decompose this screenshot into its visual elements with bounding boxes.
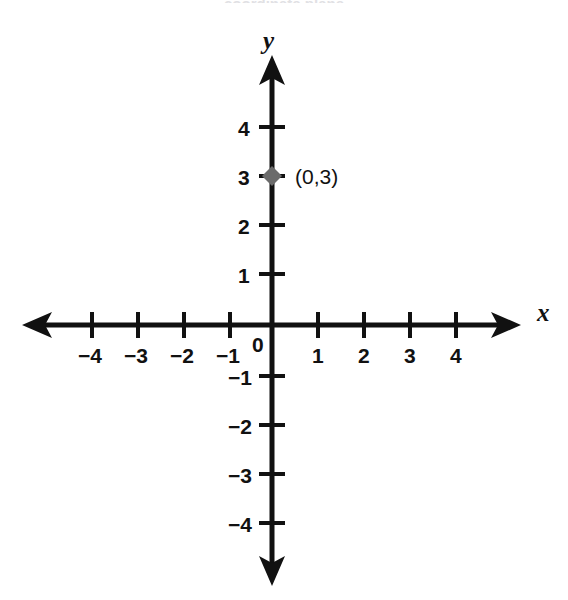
coordinate-plane-figure: coordinate plane [0,0,568,600]
axes-svg [0,0,568,600]
plotted-points-group [262,166,282,186]
y-tick-label-3: 3 [238,167,250,188]
y-axis-label: y [263,28,274,53]
y-axis-group [259,55,285,586]
y-tick-label--4: −4 [228,514,252,535]
x-tick-label-3: 3 [404,345,416,366]
x-tick-label--1: −1 [216,345,240,366]
x-tick-label-4: 4 [450,345,462,366]
y-tick-label--2: −2 [228,416,252,437]
x-tick-label--2: −2 [170,345,194,366]
y-tick-label-2: 2 [238,216,250,237]
x-tick-label-1: 1 [312,345,324,366]
x-tick-label--3: −3 [124,345,148,366]
y-tick-label--3: −3 [228,465,252,486]
y-tick-label--1: −1 [228,367,252,388]
x-axis-label: x [537,300,550,325]
x-tick-label--4: −4 [78,345,102,366]
data-point-label-0-3: (0,3) [295,166,338,187]
y-tick-label-4: 4 [238,118,250,139]
origin-tick-label: 0 [252,334,264,355]
y-tick-label-1: 1 [238,265,250,286]
x-tick-label-2: 2 [358,345,370,366]
data-point-0-3-marker [262,166,282,186]
